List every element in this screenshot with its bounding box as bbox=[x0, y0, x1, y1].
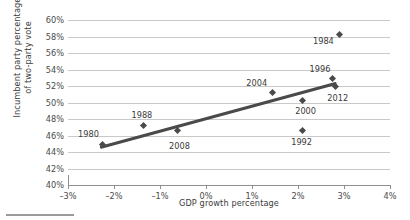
x-axis-tickmark bbox=[206, 185, 207, 189]
x-axis-tickmark bbox=[68, 185, 69, 189]
data-point-label: 2012 bbox=[327, 93, 348, 103]
gridline bbox=[68, 20, 390, 21]
y-axis-tick: 42% bbox=[4, 164, 64, 174]
y-axis-tick-labels: 40%42%44%46%48%50%52%54%56%58%60% bbox=[0, 20, 64, 185]
y-axis-tick: 52% bbox=[4, 81, 64, 91]
y-axis-tick: 50% bbox=[4, 98, 64, 108]
data-point-label: 1984 bbox=[313, 36, 334, 46]
gridline bbox=[68, 37, 390, 38]
data-point-label: 2008 bbox=[169, 141, 190, 151]
y-axis-tick: 40% bbox=[4, 180, 64, 190]
data-point-label: 1996 bbox=[310, 64, 331, 74]
gridline bbox=[68, 86, 390, 87]
data-point bbox=[174, 127, 181, 134]
y-axis-tick: 44% bbox=[4, 147, 64, 157]
x-axis-tickmark bbox=[252, 185, 253, 189]
data-point bbox=[269, 89, 276, 96]
y-axis-tick: 48% bbox=[4, 114, 64, 124]
plot-area: 198019882008199220002004201219961984 bbox=[68, 20, 390, 185]
y-axis-tick: 56% bbox=[4, 48, 64, 58]
x-axis-tickmark bbox=[390, 185, 391, 189]
data-point-label: 1980 bbox=[78, 129, 99, 139]
gridline bbox=[68, 169, 390, 170]
data-point-label: 1988 bbox=[131, 110, 152, 120]
x-axis-tickmark bbox=[114, 185, 115, 189]
x-axis-title: GDP growth percentage bbox=[68, 198, 390, 208]
gridline bbox=[68, 119, 390, 120]
gridline bbox=[68, 53, 390, 54]
x-axis-tickmark bbox=[160, 185, 161, 189]
footer-rule bbox=[6, 214, 74, 216]
data-point-label: 2004 bbox=[246, 78, 267, 88]
gridline bbox=[68, 152, 390, 153]
y-axis-tick: 60% bbox=[4, 15, 64, 25]
y-axis-tick: 58% bbox=[4, 32, 64, 42]
data-point bbox=[299, 127, 306, 134]
data-point-label: 2000 bbox=[295, 106, 316, 116]
gridline bbox=[68, 70, 390, 71]
y-axis-tick: 46% bbox=[4, 131, 64, 141]
y-axis-line bbox=[68, 175, 69, 185]
data-point-label: 1992 bbox=[291, 137, 312, 147]
gridline bbox=[68, 136, 390, 137]
x-axis-tickmark bbox=[298, 185, 299, 189]
data-point bbox=[332, 82, 339, 89]
scatter-chart: Incumbent party percentage of two-party … bbox=[0, 0, 410, 220]
y-axis-tick: 54% bbox=[4, 65, 64, 75]
x-axis-tickmark bbox=[344, 185, 345, 189]
data-point bbox=[140, 122, 147, 129]
